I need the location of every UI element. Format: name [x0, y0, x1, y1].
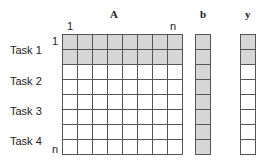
matrix-a-cell — [153, 125, 168, 140]
matrix-a-cell — [138, 80, 153, 95]
vector-y-cell — [241, 80, 256, 95]
vector-b-cell — [196, 110, 211, 125]
task-2-label: Task 2 — [10, 75, 42, 87]
vector-y-cell — [241, 35, 256, 50]
matrix-a-cell — [78, 140, 93, 155]
vector-b-cell — [196, 140, 211, 155]
matrix-a-cell — [78, 35, 93, 50]
matrix-a-cell — [108, 35, 123, 50]
matrix-a-cell — [168, 35, 183, 50]
matrix-a-cell — [138, 110, 153, 125]
matrix-a-cell — [93, 125, 108, 140]
matrix-a-cell — [123, 140, 138, 155]
matrix-a-cell — [168, 65, 183, 80]
matrix-a-cell — [168, 125, 183, 140]
matrix-a-cell — [93, 140, 108, 155]
task-4-label: Task 4 — [10, 135, 42, 147]
matrix-a-cell — [78, 95, 93, 110]
vector-y-cell — [241, 50, 256, 65]
vector-y-cell — [241, 65, 256, 80]
matrix-a-cell — [138, 50, 153, 65]
matrix-a-cell — [108, 125, 123, 140]
matrix-a-cell — [108, 95, 123, 110]
matrix-a-cell — [63, 95, 78, 110]
matrix-a-cell — [168, 95, 183, 110]
matrix-a-cell — [123, 80, 138, 95]
matrix-a-cell — [63, 110, 78, 125]
matrix-a-cell — [63, 125, 78, 140]
matrix-a-cell — [108, 50, 123, 65]
matrix-a-cell — [123, 95, 138, 110]
matrix-a-cell — [138, 125, 153, 140]
task-1-label: Task 1 — [10, 44, 42, 56]
matrix-a-cell — [78, 65, 93, 80]
vector-y-cell — [241, 140, 256, 155]
matrix-a-cell — [108, 140, 123, 155]
matrix-a-cell — [153, 50, 168, 65]
matrix-a-cell — [138, 140, 153, 155]
vector-y-cell — [241, 95, 256, 110]
vector-b-cell — [196, 80, 211, 95]
vector-b-label: b — [200, 8, 206, 20]
matrix-a-cell — [168, 80, 183, 95]
vector-b-cell — [196, 65, 211, 80]
vector-b-cell — [196, 35, 211, 50]
matrix-a-cell — [123, 65, 138, 80]
vector-b-grid — [195, 34, 211, 155]
matrix-a-cell — [138, 65, 153, 80]
matrix-a-cell — [93, 110, 108, 125]
matrix-a-cell — [93, 65, 108, 80]
matrix-a-cell — [123, 125, 138, 140]
matrix-a-cell — [78, 110, 93, 125]
col-end-label: n — [170, 20, 176, 32]
matrix-a-label: A — [110, 8, 118, 20]
matrix-a-cell — [168, 50, 183, 65]
row-start-label: 1 — [52, 35, 58, 47]
matrix-a-cell — [78, 125, 93, 140]
matrix-a-cell — [78, 80, 93, 95]
matrix-a-cell — [63, 50, 78, 65]
matrix-a-cell — [108, 65, 123, 80]
matrix-a-cell — [63, 35, 78, 50]
vector-y-label: y — [245, 8, 251, 20]
matrix-a-cell — [153, 80, 168, 95]
vector-y-cell — [241, 110, 256, 125]
matrix-a-cell — [108, 110, 123, 125]
matrix-a-cell — [93, 80, 108, 95]
matrix-a-cell — [168, 110, 183, 125]
matrix-a-cell — [153, 35, 168, 50]
col-start-label: 1 — [67, 20, 73, 32]
matrix-a-cell — [153, 140, 168, 155]
vector-b-cell — [196, 125, 211, 140]
matrix-a-cell — [168, 140, 183, 155]
matrix-a-cell — [63, 140, 78, 155]
matrix-a-cell — [93, 50, 108, 65]
vector-y-cell — [241, 125, 256, 140]
matrix-a-grid — [62, 34, 183, 155]
matrix-a-cell — [138, 95, 153, 110]
matrix-a-cell — [153, 65, 168, 80]
matrix-a-cell — [78, 50, 93, 65]
matrix-a-cell — [123, 110, 138, 125]
row-end-label: n — [52, 143, 58, 155]
matrix-a-cell — [63, 80, 78, 95]
task-3-label: Task 3 — [10, 105, 42, 117]
vector-b-cell — [196, 50, 211, 65]
matrix-a-cell — [93, 35, 108, 50]
matrix-a-cell — [153, 110, 168, 125]
matrix-a-cell — [63, 65, 78, 80]
matrix-a-cell — [123, 35, 138, 50]
vector-b-cell — [196, 95, 211, 110]
matrix-a-cell — [93, 95, 108, 110]
matrix-a-cell — [123, 50, 138, 65]
vector-y-grid — [240, 34, 256, 155]
matrix-a-cell — [108, 80, 123, 95]
matrix-a-cell — [138, 35, 153, 50]
matrix-a-cell — [153, 95, 168, 110]
